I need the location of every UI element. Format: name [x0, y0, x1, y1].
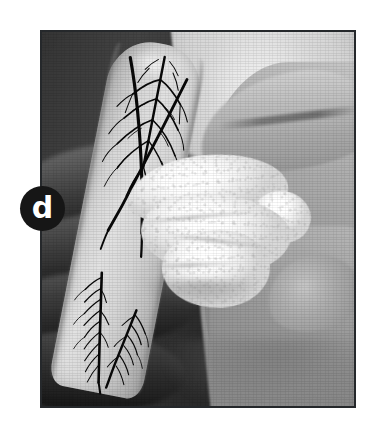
photograph-frame: [40, 30, 356, 408]
gauze-shadow: [134, 281, 270, 314]
figure-panel: d: [0, 0, 372, 426]
gauze-wrap: [123, 155, 298, 305]
panel-label-text: d: [32, 193, 53, 223]
panel-label-badge: d: [20, 186, 65, 231]
photograph-canvas: [42, 32, 354, 406]
lower-hand-shadow: [167, 339, 354, 406]
